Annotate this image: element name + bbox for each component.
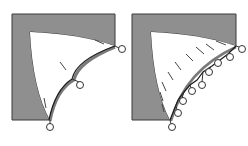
- control-node[interactable]: [77, 82, 84, 89]
- left-panel: [12, 14, 126, 131]
- right-panel: [132, 14, 246, 131]
- control-node[interactable]: [180, 98, 187, 105]
- control-node[interactable]: [189, 88, 196, 95]
- right-connector: [236, 46, 239, 47]
- control-node[interactable]: [169, 124, 176, 131]
- control-node[interactable]: [175, 110, 182, 117]
- control-node[interactable]: [227, 54, 234, 61]
- control-node[interactable]: [206, 69, 213, 76]
- control-node[interactable]: [239, 46, 246, 53]
- diagram-canvas: [0, 0, 248, 146]
- control-node[interactable]: [215, 60, 222, 67]
- control-node[interactable]: [47, 124, 54, 131]
- node-tick: [115, 46, 119, 48]
- control-node[interactable]: [119, 46, 126, 53]
- control-node[interactable]: [199, 82, 206, 89]
